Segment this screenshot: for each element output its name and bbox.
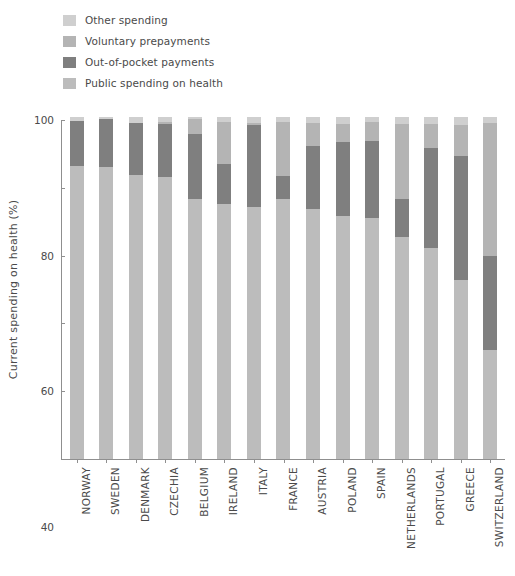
bar-segment[interactable] xyxy=(70,166,84,459)
bar-slot[interactable] xyxy=(416,120,446,459)
bar-segment[interactable] xyxy=(188,117,202,120)
bar-segment[interactable] xyxy=(158,122,172,124)
bar-slot[interactable] xyxy=(328,120,358,459)
bar-segment[interactable] xyxy=(158,117,172,122)
bar-segment[interactable] xyxy=(454,117,468,125)
bar-segment[interactable] xyxy=(483,256,497,350)
bar-segment[interactable] xyxy=(99,119,113,167)
bar-segment[interactable] xyxy=(336,216,350,459)
stacked-bar[interactable] xyxy=(276,120,290,459)
bar-slot[interactable] xyxy=(475,120,505,459)
bar-slot[interactable] xyxy=(298,120,328,459)
bar-segment[interactable] xyxy=(306,117,320,123)
bar-segment[interactable] xyxy=(276,176,290,199)
bar-slot[interactable] xyxy=(92,120,122,459)
stacked-bar[interactable] xyxy=(306,120,320,459)
bar-slot[interactable] xyxy=(446,120,476,459)
bar-segment[interactable] xyxy=(188,119,202,134)
y-axis-title-text: Current spending on health (%) xyxy=(8,200,21,379)
bar-segment[interactable] xyxy=(365,117,379,122)
bar-segment[interactable] xyxy=(70,117,84,121)
bar-segment[interactable] xyxy=(395,237,409,459)
bar-segment[interactable] xyxy=(158,177,172,459)
bar-segment[interactable] xyxy=(276,117,290,122)
x-tick-label: SWEDEN xyxy=(110,467,121,576)
bar-segment[interactable] xyxy=(454,125,468,156)
stacked-bar[interactable] xyxy=(336,120,350,459)
bar-segment[interactable] xyxy=(70,121,84,166)
bar-segment[interactable] xyxy=(395,199,409,237)
bar-segment[interactable] xyxy=(336,117,350,124)
bar-segment[interactable] xyxy=(365,141,379,218)
chart-legend: Other spending Voluntary prepayments Out… xyxy=(63,10,323,94)
bar-segment[interactable] xyxy=(365,218,379,459)
x-tick-label: BELGIUM xyxy=(199,467,210,576)
bar-segment[interactable] xyxy=(217,122,231,164)
bar-segment[interactable] xyxy=(217,164,231,204)
stacked-bar[interactable] xyxy=(424,120,438,459)
bar-segment[interactable] xyxy=(129,117,143,123)
bar-segment[interactable] xyxy=(306,123,320,146)
x-tick xyxy=(313,459,314,463)
bar-segment[interactable] xyxy=(158,124,172,176)
bar-segment[interactable] xyxy=(454,280,468,459)
stacked-bar[interactable] xyxy=(70,120,84,459)
bar-segment[interactable] xyxy=(247,123,261,125)
bar-segment[interactable] xyxy=(306,209,320,459)
bar-slot[interactable] xyxy=(62,120,92,459)
bar-segment[interactable] xyxy=(336,124,350,143)
stacked-bar-chart: Other spending Voluntary prepayments Out… xyxy=(0,0,515,576)
bar-segment[interactable] xyxy=(424,248,438,459)
bar-segment[interactable] xyxy=(424,117,438,124)
x-tick xyxy=(490,459,491,463)
stacked-bar[interactable] xyxy=(454,120,468,459)
bar-segment[interactable] xyxy=(395,117,409,124)
stacked-bar[interactable] xyxy=(395,120,409,459)
bar-segment[interactable] xyxy=(483,117,497,123)
bar-slot[interactable] xyxy=(357,120,387,459)
bar-segment[interactable] xyxy=(247,207,261,459)
stacked-bar[interactable] xyxy=(483,120,497,459)
x-tick xyxy=(195,459,196,463)
x-tick-label: FRANCE xyxy=(288,467,299,576)
x-tick-label: ITALY xyxy=(258,467,269,576)
bar-segment[interactable] xyxy=(129,123,143,176)
bar-segment[interactable] xyxy=(365,122,379,141)
stacked-bar[interactable] xyxy=(365,120,379,459)
stacked-bar[interactable] xyxy=(247,120,261,459)
stacked-bar[interactable] xyxy=(129,120,143,459)
bar-segment[interactable] xyxy=(395,124,409,200)
bar-segment[interactable] xyxy=(129,175,143,459)
bar-segment[interactable] xyxy=(99,117,113,119)
bar-segment[interactable] xyxy=(276,122,290,176)
bar-slot[interactable] xyxy=(180,120,210,459)
bar-segment[interactable] xyxy=(483,123,497,257)
stacked-bar[interactable] xyxy=(217,120,231,459)
stacked-bar[interactable] xyxy=(188,120,202,459)
bar-slot[interactable] xyxy=(387,120,417,459)
bar-segment[interactable] xyxy=(276,199,290,459)
bar-segment[interactable] xyxy=(424,148,438,248)
bar-slot[interactable] xyxy=(121,120,151,459)
legend-swatch-icon xyxy=(63,78,76,89)
bar-segment[interactable] xyxy=(306,146,320,209)
bar-segment[interactable] xyxy=(336,142,350,216)
bar-segment[interactable] xyxy=(483,350,497,459)
x-tick xyxy=(402,459,403,463)
bar-segment[interactable] xyxy=(247,125,261,208)
bar-segment[interactable] xyxy=(217,204,231,459)
bar-segment[interactable] xyxy=(247,117,261,123)
bar-segment[interactable] xyxy=(424,124,438,148)
bar-segment[interactable] xyxy=(454,156,468,280)
legend-item-public-spending-on-health: Public spending on health xyxy=(63,73,323,94)
bar-slot[interactable] xyxy=(151,120,181,459)
bar-segment[interactable] xyxy=(188,199,202,459)
bar-slot[interactable] xyxy=(239,120,269,459)
stacked-bar[interactable] xyxy=(99,120,113,459)
bar-segment[interactable] xyxy=(188,134,202,199)
bar-slot[interactable] xyxy=(210,120,240,459)
bar-segment[interactable] xyxy=(99,167,113,459)
bar-segment[interactable] xyxy=(217,117,231,122)
stacked-bar[interactable] xyxy=(158,120,172,459)
bar-slot[interactable] xyxy=(269,120,299,459)
